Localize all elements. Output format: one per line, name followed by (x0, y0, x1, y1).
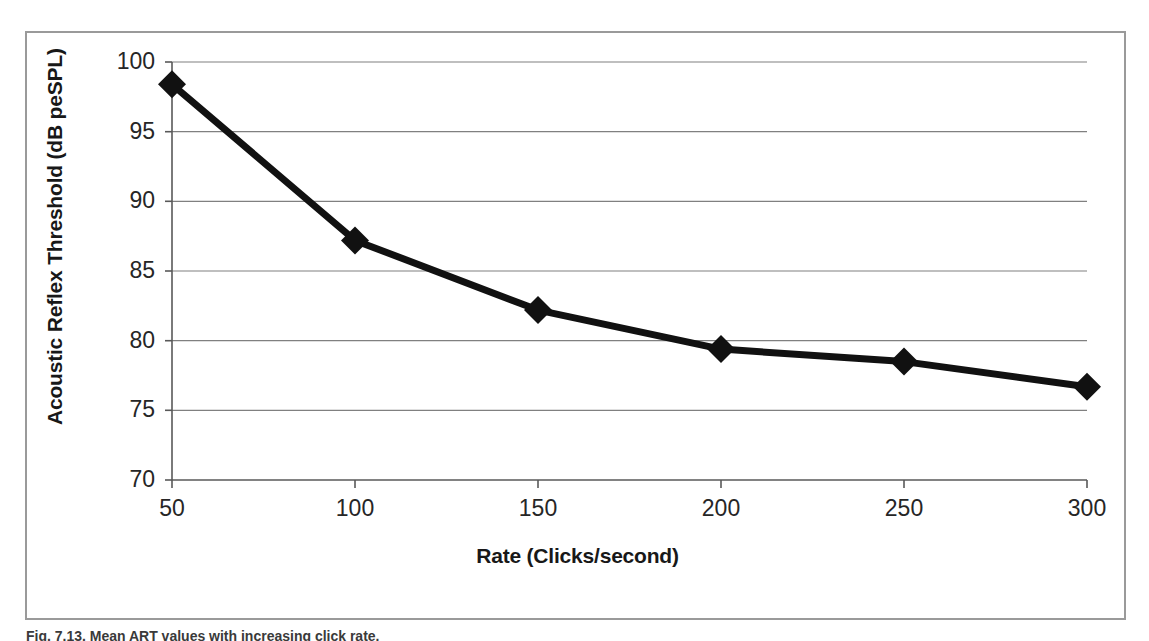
y-tick-label-95: 95 (103, 118, 155, 145)
figure-caption: Fig. 7.13. Mean ART values with increasi… (26, 628, 726, 641)
data-point-250 (890, 348, 918, 376)
y-tick-label-75: 75 (103, 396, 155, 423)
x-tick-label-150: 150 (498, 495, 578, 522)
data-markers (158, 70, 1101, 400)
figure-container: 100 95 90 85 80 75 70 50 100 150 200 250… (0, 0, 1149, 641)
y-tick-label-90: 90 (103, 187, 155, 214)
y-tick-label-70: 70 (103, 466, 155, 493)
data-point-300 (1073, 373, 1101, 401)
y-tick-label-80: 80 (103, 327, 155, 354)
x-tick-label-50: 50 (132, 495, 212, 522)
y-tick-label-100: 100 (103, 48, 155, 75)
y-axis-ticks (165, 62, 172, 480)
chart-frame: 100 95 90 85 80 75 70 50 100 150 200 250… (25, 31, 1126, 620)
x-tick-label-250: 250 (864, 495, 944, 522)
y-tick-label-85: 85 (103, 257, 155, 284)
data-point-200 (707, 335, 735, 363)
data-series-line (172, 84, 1087, 386)
chart-plot-area (27, 33, 1128, 622)
x-tick-label-200: 200 (681, 495, 761, 522)
data-point-150 (524, 296, 552, 324)
x-axis-ticks (172, 480, 1087, 488)
x-tick-label-300: 300 (1047, 495, 1127, 522)
x-axis-title: Rate (Clicks/second) (27, 544, 1128, 568)
gridlines (172, 62, 1087, 410)
y-axis-title: Acoustic Reflex Threshold (dB peSPL) (43, 95, 67, 425)
x-tick-label-100: 100 (315, 495, 395, 522)
